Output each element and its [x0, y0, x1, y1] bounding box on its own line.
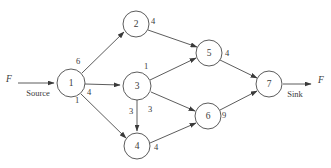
node-1-label: 1: [69, 78, 74, 88]
sink-label: Sink: [287, 89, 303, 99]
edge-1-to-3: [85, 84, 120, 85]
node-2-label: 2: [134, 19, 139, 29]
edge-weight-4-6: 4: [154, 142, 159, 152]
edge-1-to-4: [81, 94, 126, 138]
edge-3-to-5: [150, 58, 196, 80]
node-5-label: 5: [207, 48, 212, 58]
edge-4-to-6: [150, 123, 196, 143]
node-4-label: 4: [135, 141, 140, 151]
edge-1-to-2: [82, 32, 124, 73]
edge-6-to-7: [220, 91, 257, 110]
edge-weight-1-2: 6: [76, 56, 80, 66]
edge-3-to-6: [151, 92, 195, 111]
edge-5-to-7: [220, 60, 257, 78]
edge-weight-3-5: 1: [144, 61, 148, 71]
network-flow-diagram: 1 2 3 4 5 6 7 6 4 1 4 1 3 3 4 4 9 F Sour…: [0, 0, 331, 168]
edge-weight-1-4: 1: [75, 95, 79, 105]
edge-weight-3-4: 3: [129, 106, 133, 116]
edge-2-to-5: [148, 30, 197, 47]
source-flow-symbol: F: [5, 74, 12, 84]
sink-flow-symbol: F: [317, 75, 324, 85]
node-7-label: 7: [267, 79, 272, 89]
node-3-label: 3: [135, 81, 140, 91]
source-label: Source: [26, 88, 50, 98]
edge-weight-3-6: 3: [148, 104, 152, 114]
node-6-label: 6: [206, 111, 211, 121]
graph-canvas: 1 2 3 4 5 6 7 6 4 1 4 1 3 3 4 4 9 F Sour…: [0, 0, 331, 168]
edge-weight-5-7: 4: [225, 48, 230, 58]
edge-weight-2-5: 4: [151, 16, 156, 26]
edge-weight-6-7: 9: [222, 110, 226, 120]
edge-weight-1-3: 4: [87, 87, 92, 97]
